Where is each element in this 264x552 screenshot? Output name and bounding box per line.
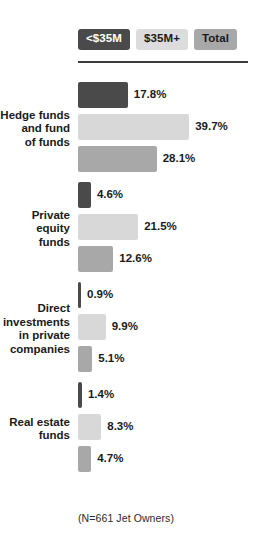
bar-value-label: 4.7% — [97, 453, 123, 465]
bar-0[interactable] — [78, 82, 128, 108]
category-label: Real estatefunds — [0, 379, 72, 479]
bar-2[interactable] — [78, 346, 92, 372]
chart-group: Hedge fundsand fundof funds17.8%39.7%28.… — [0, 79, 264, 179]
bar-2[interactable] — [78, 146, 157, 172]
bar-row: 5.1% — [78, 346, 124, 372]
category-bars: 1.4%8.3%4.7% — [78, 379, 264, 479]
bar-value-label: 1.4% — [88, 389, 114, 401]
bar-row: 21.5% — [78, 214, 177, 240]
chart-group: Real estatefunds1.4%8.3%4.7% — [0, 379, 264, 479]
legend-label-total: Total — [202, 32, 229, 44]
bar-value-label: 8.3% — [107, 421, 133, 433]
bar-1[interactable] — [78, 314, 106, 340]
bar-row: 4.7% — [78, 446, 123, 472]
bar-value-label: 28.1% — [163, 153, 196, 165]
legend-item-total[interactable]: Total — [194, 29, 237, 50]
legend-item-35m-plus[interactable]: $35M+ — [136, 29, 188, 50]
bar-value-label: 4.6% — [97, 189, 123, 201]
bar-0[interactable] — [78, 182, 91, 208]
bar-1[interactable] — [78, 114, 189, 140]
bar-row: 8.3% — [78, 414, 133, 440]
chart-group: Privateequityfunds4.6%21.5%12.6% — [0, 179, 264, 279]
chart-plot-area: Hedge fundsand fundof funds17.8%39.7%28.… — [0, 79, 264, 479]
category-label: Hedge fundsand fundof funds — [0, 79, 72, 179]
grouped-bar-chart: <$35M $35M+ Total Hedge fundsand fundof … — [0, 0, 264, 552]
chart-group: Directinvestmentsin privatecompanies0.9%… — [0, 279, 264, 379]
legend-label-under-35m: <$35M — [86, 32, 122, 44]
bar-value-label: 17.8% — [134, 89, 167, 101]
legend-label-35m-plus: $35M+ — [144, 32, 180, 44]
chart-footnote: (N=661 Jet Owners) — [78, 512, 174, 524]
bar-1[interactable] — [78, 214, 138, 240]
category-label: Privateequityfunds — [0, 179, 72, 279]
bar-value-label: 39.7% — [195, 121, 228, 133]
bar-value-label: 12.6% — [119, 253, 152, 265]
bar-2[interactable] — [78, 446, 91, 472]
bar-row: 0.9% — [78, 282, 113, 308]
bar-row: 12.6% — [78, 246, 152, 272]
bar-value-label: 21.5% — [144, 221, 177, 233]
bar-2[interactable] — [78, 246, 113, 272]
bar-row: 28.1% — [78, 146, 195, 172]
bar-row: 17.8% — [78, 82, 166, 108]
bar-value-label: 5.1% — [98, 353, 124, 365]
bar-row: 39.7% — [78, 114, 228, 140]
bar-row: 9.9% — [78, 314, 138, 340]
bar-value-label: 0.9% — [87, 289, 113, 301]
chart-legend: <$35M $35M+ Total — [78, 29, 237, 50]
bar-1[interactable] — [78, 414, 101, 440]
bar-0[interactable] — [78, 282, 81, 308]
bar-0[interactable] — [78, 382, 82, 408]
bar-value-label: 9.9% — [112, 321, 138, 333]
bar-row: 4.6% — [78, 182, 123, 208]
bar-row: 1.4% — [78, 382, 114, 408]
legend-item-under-35m[interactable]: <$35M — [78, 29, 130, 50]
category-bars: 17.8%39.7%28.1% — [78, 79, 264, 179]
category-label: Directinvestmentsin privatecompanies — [0, 279, 72, 379]
legend-divider — [78, 61, 248, 63]
category-bars: 0.9%9.9%5.1% — [78, 279, 264, 379]
category-bars: 4.6%21.5%12.6% — [78, 179, 264, 279]
